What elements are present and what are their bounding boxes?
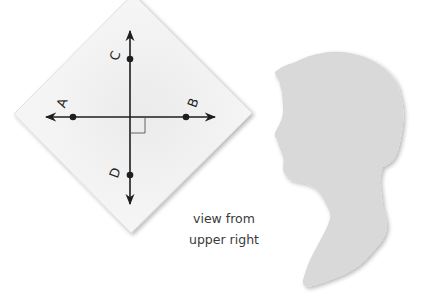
- caption-line-1: view from: [172, 208, 276, 229]
- head-silhouette: [275, 52, 404, 287]
- view-caption: view from upper right: [172, 208, 276, 250]
- point-a: [70, 114, 77, 121]
- point-c: [127, 56, 134, 63]
- caption-line-2: upper right: [172, 229, 276, 250]
- point-b: [183, 114, 190, 121]
- point-d: [127, 172, 134, 179]
